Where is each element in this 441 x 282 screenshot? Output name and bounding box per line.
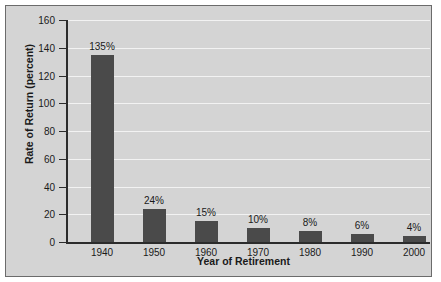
bar: 135% xyxy=(91,55,114,242)
bar: 15% xyxy=(195,221,218,242)
bar-value-label: 135% xyxy=(89,41,115,52)
bar-value-label: 24% xyxy=(144,195,164,206)
y-tick-label: 120 xyxy=(38,70,55,81)
gridline xyxy=(61,76,430,77)
y-tick-label: 80 xyxy=(44,126,55,137)
bar-value-label: 10% xyxy=(248,214,268,225)
gridline xyxy=(61,48,430,49)
y-tick-label: 160 xyxy=(38,15,55,26)
bar-value-label: 8% xyxy=(303,217,317,228)
bar-value-label: 6% xyxy=(355,220,369,231)
bar: 4% xyxy=(403,236,426,242)
chart-figure: Rate of Return (percent) 160140120100806… xyxy=(5,5,432,277)
bar: 24% xyxy=(143,209,166,242)
gridline xyxy=(61,187,430,188)
y-axis-title: Rate of Return (percent) xyxy=(23,29,35,179)
y-tick-label: 40 xyxy=(44,181,55,192)
plot-area: 160140120100806040200 135%24%15%10%8%6%4… xyxy=(61,20,430,242)
bar-value-label: 15% xyxy=(196,207,216,218)
y-tick-label: 20 xyxy=(44,209,55,220)
bar: 8% xyxy=(299,231,322,242)
y-tick-label: 60 xyxy=(44,153,55,164)
gridline xyxy=(61,103,430,104)
y-tick-label: 100 xyxy=(38,98,55,109)
bar: 10% xyxy=(247,228,270,242)
y-tick-label: 0 xyxy=(49,237,55,248)
y-tick-label: 140 xyxy=(38,42,55,53)
x-axis-title: Year of Retirement xyxy=(61,255,426,267)
gridline xyxy=(61,214,430,215)
x-axis-line xyxy=(66,242,430,244)
bar-value-label: 4% xyxy=(407,222,421,233)
gridline xyxy=(61,20,430,21)
gridline xyxy=(61,159,430,160)
bar: 6% xyxy=(351,234,374,242)
gridline xyxy=(61,131,430,132)
y-axis-line xyxy=(66,20,68,242)
